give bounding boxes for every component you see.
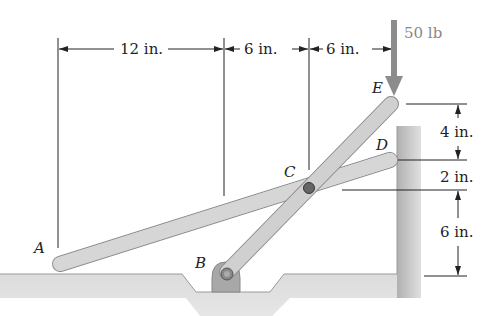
label-point-e: E	[371, 79, 383, 97]
force-label: 50 lb	[404, 24, 442, 42]
dim-label-6in-vert: 6 in.	[440, 223, 474, 241]
dim-label-6in-bc: 6 in.	[244, 40, 278, 58]
pin-b-center	[224, 271, 230, 277]
force-arrow-50lb: 50 lb	[385, 20, 442, 96]
bar-ad	[60, 160, 390, 264]
pin-c	[304, 183, 315, 194]
wall	[397, 126, 421, 298]
dim-label-2in: 2 in.	[440, 168, 474, 186]
mechanism-diagram: 12 in. 6 in. 6 in. 4 in. 2 in. 6 in.	[0, 0, 497, 316]
dim-label-6in-ce: 6 in.	[326, 40, 360, 58]
dim-label-4in: 4 in.	[440, 123, 474, 141]
label-point-c: C	[284, 163, 296, 181]
dim-label-12in: 12 in.	[120, 40, 163, 58]
label-point-a: A	[32, 239, 45, 257]
horizontal-dimensions: 12 in. 6 in. 6 in.	[59, 40, 392, 58]
label-point-d: D	[375, 136, 388, 154]
label-point-b: B	[194, 254, 206, 272]
